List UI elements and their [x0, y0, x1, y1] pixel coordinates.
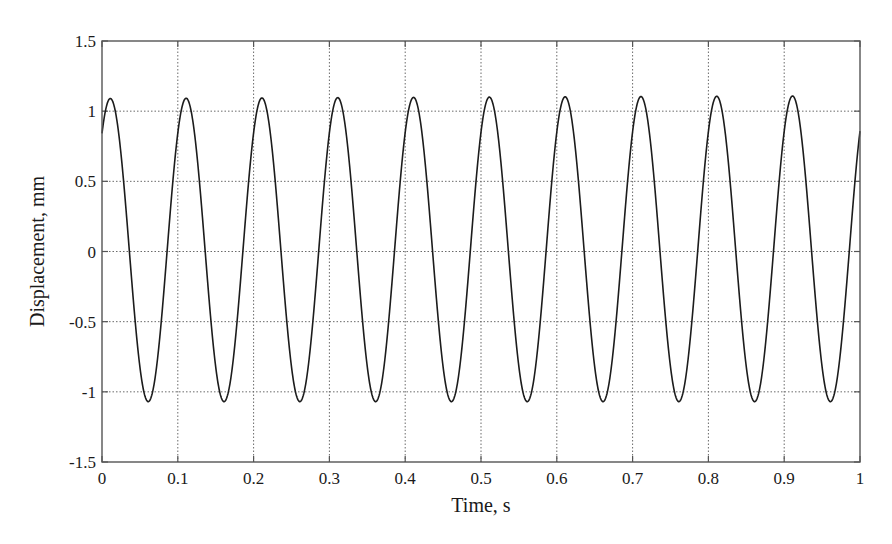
x-tick-label: 0.5 — [470, 469, 491, 488]
displacement-chart: 00.10.20.30.40.50.60.70.80.91 1.510.50-0… — [0, 0, 892, 544]
y-tick-label: -0.5 — [69, 313, 96, 332]
x-tick-label: 1 — [856, 469, 865, 488]
y-tick-label: -1 — [82, 383, 96, 402]
x-tick-labels: 00.10.20.30.40.50.60.70.80.91 — [98, 469, 865, 488]
x-tick-label: 0.9 — [774, 469, 795, 488]
x-axis-label: Time, s — [451, 494, 511, 516]
grid-layer — [102, 41, 860, 462]
x-tick-label: 0.3 — [319, 469, 340, 488]
x-tick-label: 0 — [98, 469, 107, 488]
y-tick-labels: 1.510.50-0.5-1-1.5 — [69, 32, 96, 472]
y-tick-label: 1 — [88, 102, 97, 121]
x-tick-label: 0.8 — [698, 469, 719, 488]
y-axis-label: Displacement, mm — [26, 176, 49, 328]
x-tick-label: 0.1 — [167, 469, 188, 488]
x-tick-label: 0.4 — [395, 469, 417, 488]
x-tick-label: 0.7 — [622, 469, 644, 488]
x-tick-label: 0.6 — [546, 469, 567, 488]
y-tick-label: -1.5 — [69, 453, 96, 472]
y-tick-label: 0.5 — [75, 172, 96, 191]
y-tick-label: 0 — [88, 243, 97, 262]
y-tick-label: 1.5 — [75, 32, 96, 51]
x-tick-label: 0.2 — [243, 469, 264, 488]
